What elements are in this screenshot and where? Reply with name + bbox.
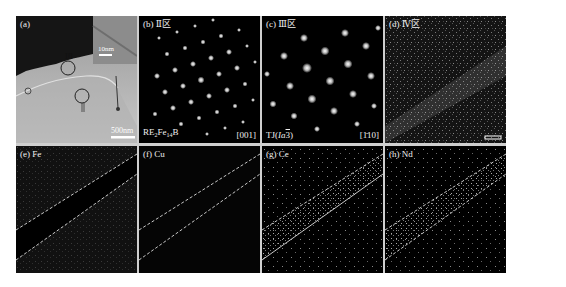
panel-a-tem-image: (a) III 10nm 500nm [16, 16, 137, 143]
phase-text: RE [143, 127, 155, 137]
phase-text: Fe [158, 127, 167, 137]
panel-b-diffraction: (b) Ⅱ区 RE2Fe14B [001] [139, 16, 260, 143]
phase-text: ) [290, 130, 293, 140]
panel-label: (d) Ⅳ区 [389, 19, 420, 29]
panel-c-diffraction: (c) Ⅲ区 TJ(Ia3) [1̄10] [262, 16, 383, 143]
element-map [16, 146, 137, 273]
inset-scale-label: 10nm [98, 44, 114, 54]
panel-h-nd-map: (h) Nd [385, 146, 506, 273]
zone-axis-label: [001] [237, 130, 257, 140]
panel-label: (c) Ⅲ区 [266, 19, 296, 29]
figure: (a) III 10nm 500nm (b) Ⅱ区 RE2Fe14B [001] [16, 16, 506, 273]
panel-e-fe-map: (e) Fe [16, 146, 137, 273]
element-map [139, 146, 260, 273]
phase-label: RE2Fe14B [143, 127, 179, 140]
marker-label-iii: III [65, 52, 73, 62]
phase-text: B [173, 127, 179, 137]
space-group-text: Ia [278, 130, 286, 140]
zone-axis-label: [1̄10] [360, 130, 379, 140]
panel-label: (b) Ⅱ区 [143, 19, 171, 29]
panel-g-ce-map: (g) Ce [262, 146, 383, 273]
panel-label: (h) Nd [389, 149, 413, 159]
element-map [262, 146, 383, 273]
panel-label: (f) Cu [143, 149, 165, 159]
panel-label: (g) Ce [266, 149, 289, 159]
diffraction-pattern [262, 16, 383, 143]
phase-label: TJ(Ia3) [266, 130, 293, 140]
tem-image [16, 16, 137, 143]
phase-text: TJ( [266, 130, 278, 140]
scale-bar-label: 500nm [111, 126, 133, 136]
panel-label: (a) [20, 19, 30, 29]
panel-f-cu-map: (f) Cu [139, 146, 260, 273]
diffraction-pattern [139, 16, 260, 143]
eds-map [385, 16, 506, 143]
element-map [385, 146, 506, 273]
panel-d-eds-map: (d) Ⅳ区 [385, 16, 506, 143]
panel-label: (e) Fe [20, 149, 41, 159]
